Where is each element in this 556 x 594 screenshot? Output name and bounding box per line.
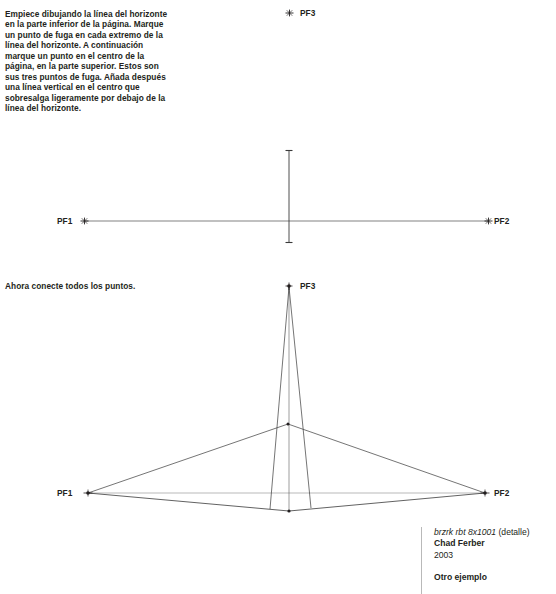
artwork-caption: brzrk rbt 8x1001 (detalle) Chad Ferber 2… <box>421 527 556 594</box>
label-vanishing-point-1-bottom: PF1 <box>57 488 72 498</box>
caption-title-line: brzrk rbt 8x1001 (detalle) <box>434 527 556 538</box>
caption-year: 2003 <box>434 550 556 561</box>
bottom-edge-to-pf2 <box>289 493 485 511</box>
box-top-vertex-dot <box>287 423 290 426</box>
label-vanishing-point-3-bottom: PF3 <box>300 281 315 291</box>
vanishing-point-3-marker-bottom <box>286 283 293 291</box>
edge-to-pf3-right <box>289 287 311 508</box>
vanishing-point-1-marker-bottom <box>84 490 93 497</box>
caption-next-section-heading: Otro ejemplo <box>434 572 556 583</box>
box-bottom-vertex-dot <box>287 509 290 512</box>
label-vanishing-point-2-bottom: PF2 <box>494 488 509 498</box>
lower-perspective-diagram <box>0 0 556 594</box>
page-root: Empiece dibujando la línea del horizonte… <box>0 0 556 594</box>
caption-author: Chad Ferber <box>434 538 556 549</box>
top-edge-to-pf2 <box>288 424 485 493</box>
caption-artwork-title: brzrk rbt 8x1001 <box>434 527 496 537</box>
bottom-edge-to-pf1 <box>88 493 289 511</box>
edge-to-pf3-left <box>270 287 289 509</box>
top-edge-to-pf1 <box>88 424 288 493</box>
caption-artwork-detail: (detalle) <box>496 527 529 537</box>
vanishing-point-2-marker-bottom <box>481 490 490 497</box>
